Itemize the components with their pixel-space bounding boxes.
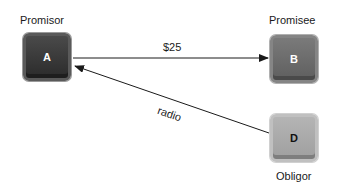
node-a[interactable]: A <box>23 33 71 81</box>
edge-d-to-a <box>75 66 269 133</box>
edge-label-payment: $25 <box>163 41 181 53</box>
diagram-edges <box>0 0 338 194</box>
promisor-label: Promisor <box>20 14 64 26</box>
node-d-letter: D <box>290 132 298 144</box>
node-a-letter: A <box>43 51 51 63</box>
promisee-label: Promisee <box>269 14 315 26</box>
obligor-label: Obligor <box>276 170 311 182</box>
node-b[interactable]: B <box>270 35 318 83</box>
node-b-letter: B <box>290 53 298 65</box>
node-d[interactable]: D <box>270 114 318 162</box>
